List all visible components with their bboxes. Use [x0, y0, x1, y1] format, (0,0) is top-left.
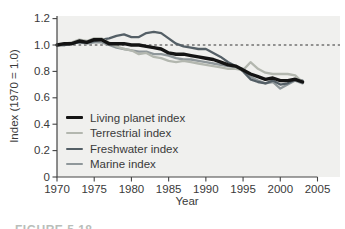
legend-swatch-living-planet-index — [66, 116, 83, 119]
legend-label: Terrestrial index — [90, 127, 171, 139]
legend-item-terrestrial-index: Terrestrial index — [66, 126, 185, 142]
legend-label: Freshwater index — [90, 143, 178, 155]
legend-label: Living planet index — [90, 112, 185, 124]
legend-swatch-marine-index — [66, 163, 83, 165]
figure-caption-cropped: FIGURE 5.18 — [15, 223, 93, 229]
legend-item-freshwater-index: Freshwater index — [66, 141, 185, 157]
living-planet-index-chart: 00.20.40.60.81.01.2 19701975198019851990… — [0, 0, 345, 229]
legend-item-marine-index: Marine index — [66, 157, 185, 173]
legend-label: Marine index — [90, 158, 156, 170]
legend: Living planet index Terrestrial index Fr… — [66, 110, 185, 172]
legend-item-living-planet-index: Living planet index — [66, 110, 185, 126]
legend-swatch-freshwater-index — [66, 148, 83, 150]
legend-swatch-terrestrial-index — [66, 132, 83, 134]
